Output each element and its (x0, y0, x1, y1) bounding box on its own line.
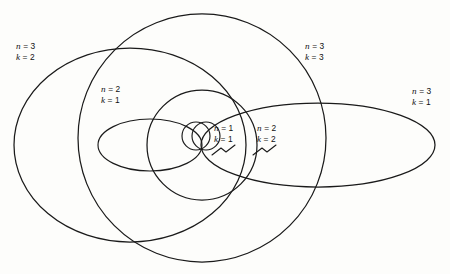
label-n3-k2: n = 3 k = 2 (16, 41, 35, 63)
label-n3-k3-k: k = 3 (305, 52, 324, 63)
label-n2-k1-k: k = 1 (101, 95, 120, 106)
label-n2-k2-n: n = 2 (257, 123, 276, 134)
label-n2-k2: n = 2 k = 2 (257, 123, 276, 145)
orbit-n3-k1 (201, 103, 435, 187)
label-n1-k1: n = 1 k = 1 (214, 123, 233, 145)
label-n1-k1-n: n = 1 (214, 123, 233, 134)
label-n2-k2-k: k = 2 (257, 134, 276, 145)
label-n3-k2-k: k = 2 (16, 52, 35, 63)
label-n2-k1-n: n = 2 (101, 84, 120, 95)
orbital-diagram: n = 3 k = 2 n = 2 k = 1 n = 3 k = 3 n = … (0, 0, 450, 274)
label-n3-k1-n: n = 3 (412, 86, 431, 97)
label-n3-k1: n = 3 k = 1 (412, 86, 431, 108)
label-n3-k1-k: k = 1 (412, 97, 431, 108)
label-n3-k3-n: n = 3 (305, 41, 324, 52)
label-n3-k3: n = 3 k = 3 (305, 41, 324, 63)
orbit-n3-k2 (14, 48, 246, 242)
label-n1-k1-k: k = 1 (214, 134, 233, 145)
label-n3-k2-n: n = 3 (16, 41, 35, 52)
label-n2-k1: n = 2 k = 1 (101, 84, 120, 106)
